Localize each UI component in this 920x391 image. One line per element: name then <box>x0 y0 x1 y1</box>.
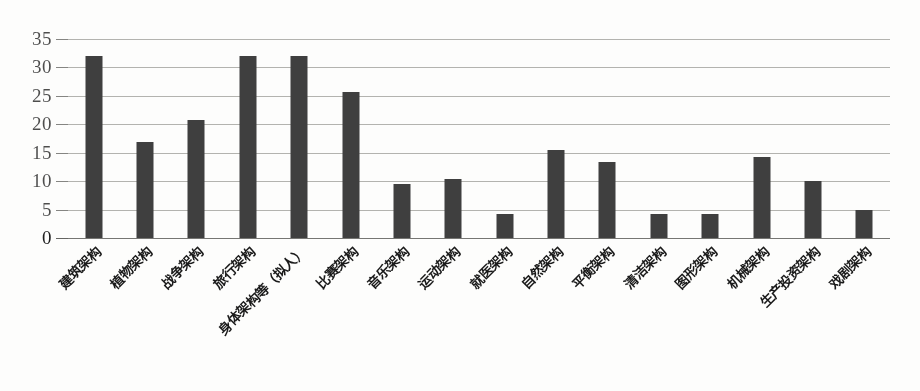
bar-slot <box>633 39 684 238</box>
x-axis-tick-label: 戏剧架构 <box>828 245 874 291</box>
y-axis-tick-label: 0 <box>42 228 52 247</box>
x-axis-tick-label: 比赛架构 <box>314 245 360 291</box>
bar-slot <box>376 39 427 238</box>
bar <box>445 179 462 238</box>
bar-slot <box>839 39 890 238</box>
y-axis-tick-label: 15 <box>32 143 52 162</box>
y-axis-tick <box>56 39 68 40</box>
y-axis-tick <box>56 238 68 239</box>
bar <box>856 210 873 238</box>
bar <box>702 214 719 238</box>
y-axis-tick-label: 25 <box>32 86 52 105</box>
x-axis-tick-label: 清洁架构 <box>622 245 668 291</box>
bar-slot <box>685 39 736 238</box>
x-axis-tick-label: 战争架构 <box>160 245 206 291</box>
bar-slot <box>582 39 633 238</box>
bar-slot <box>428 39 479 238</box>
bar-slot <box>119 39 170 238</box>
bar-slot <box>736 39 787 238</box>
bar-slot <box>479 39 530 238</box>
bar <box>753 157 770 238</box>
x-axis-tick-label: 自然架构 <box>519 245 565 291</box>
y-axis-tick <box>56 96 68 97</box>
bar <box>188 120 205 238</box>
bar <box>804 181 821 238</box>
x-axis-tick-label: 平衡架构 <box>571 245 617 291</box>
x-axis-tick-label: 旅行架构 <box>211 245 257 291</box>
x-axis-tick-label: 图形架构 <box>673 245 719 291</box>
x-axis-tick-label: 植物架构 <box>108 245 154 291</box>
bar-chart: 05101520253035 建筑架构植物架构战争架构旅行架构身体架构等（拟人）… <box>0 0 920 391</box>
bar-slot <box>68 39 119 238</box>
y-axis-tick <box>56 210 68 211</box>
plot-area: 05101520253035 <box>68 39 890 238</box>
bar <box>496 214 513 238</box>
y-axis-tick-label: 35 <box>32 29 52 48</box>
bar <box>85 56 102 238</box>
bar-slot <box>222 39 273 238</box>
x-axis-tick-label: 建筑架构 <box>57 245 103 291</box>
bar-series <box>68 39 890 238</box>
bar <box>291 56 308 238</box>
y-axis-tick-label: 30 <box>32 58 52 77</box>
bar-slot <box>325 39 376 238</box>
x-axis-tick-label: 机械架构 <box>725 245 771 291</box>
bar <box>548 150 565 238</box>
bar-slot <box>787 39 838 238</box>
bar-slot <box>171 39 222 238</box>
y-axis-tick <box>56 153 68 154</box>
y-axis-tick-label: 10 <box>32 171 52 190</box>
y-axis-tick <box>56 181 68 182</box>
axis-baseline: 0 <box>68 238 890 239</box>
y-axis-tick <box>56 124 68 125</box>
bar <box>342 92 359 238</box>
bar <box>239 56 256 238</box>
x-axis-tick-label: 运动架构 <box>417 245 463 291</box>
bar-slot <box>274 39 325 238</box>
x-axis-tick-label: 音乐架构 <box>365 245 411 291</box>
bar <box>137 142 154 238</box>
y-axis-tick <box>56 67 68 68</box>
bar <box>393 184 410 238</box>
y-axis-tick-label: 5 <box>42 200 52 219</box>
x-axis-labels: 建筑架构植物架构战争架构旅行架构身体架构等（拟人）比赛架构音乐架构运动架构就医架… <box>68 243 890 391</box>
bar <box>599 162 616 238</box>
x-axis-tick-label: 就医架构 <box>468 245 514 291</box>
bar <box>650 214 667 238</box>
bar-slot <box>530 39 581 238</box>
y-axis-tick-label: 20 <box>32 114 52 133</box>
